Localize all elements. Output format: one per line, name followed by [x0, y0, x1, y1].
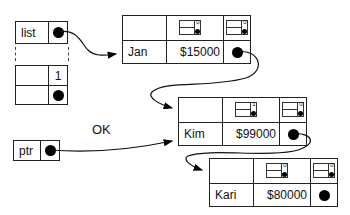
arrow-jan-to-kim [151, 52, 259, 108]
arrows-layer [0, 0, 350, 215]
arrow-ptr-to-kim [50, 141, 172, 151]
arrow-kim-to-kari [186, 134, 310, 170]
arrow-list-to-jan [58, 31, 116, 55]
